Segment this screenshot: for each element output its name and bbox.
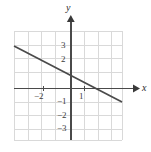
y-tick-label-2: 2 <box>61 55 66 64</box>
plotted-line <box>14 46 122 102</box>
horizontal-gridlines <box>14 32 122 141</box>
y-tick-label-neg1: −1 <box>57 97 67 106</box>
axes-group <box>14 15 140 140</box>
y-tick-label-neg3: −3 <box>57 124 67 133</box>
y-axis-arrowhead <box>67 15 75 22</box>
y-tick-label-neg2: −2 <box>57 111 67 120</box>
cartesian-graph-figure: y x −2 1 3 2 −1 −2 −3 <box>0 0 151 152</box>
y-tick-label-3: 3 <box>61 41 66 50</box>
x-tick-label-1: 1 <box>79 92 84 101</box>
gridlines-group <box>14 31 123 140</box>
vertical-gridlines <box>15 31 123 140</box>
graph-canvas <box>0 0 151 152</box>
y-axis-label: y <box>66 3 70 13</box>
x-tick-label-neg2: −2 <box>34 92 44 101</box>
x-axis-arrowhead <box>133 85 140 93</box>
x-axis-label: x <box>142 83 146 93</box>
